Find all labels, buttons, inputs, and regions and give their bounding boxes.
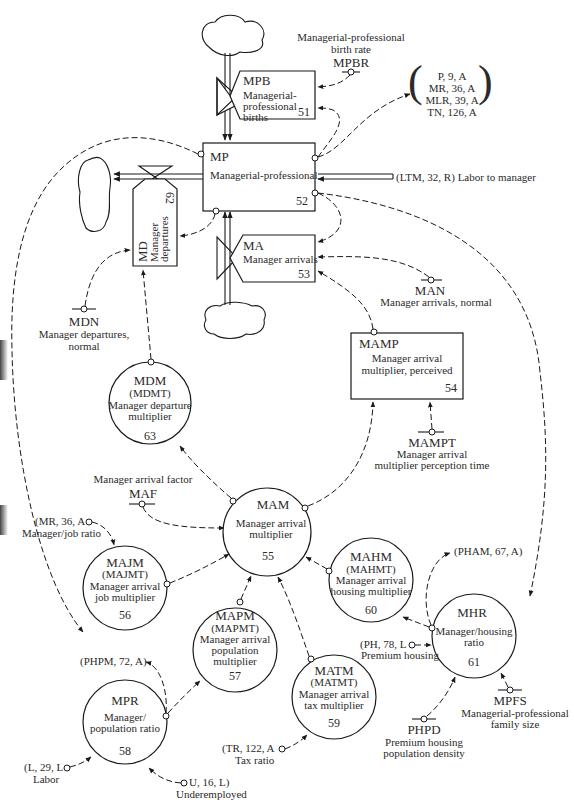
bracket-right: ) <box>478 57 493 106</box>
md-num: 62 <box>163 192 177 204</box>
mpbr-label-2: birth rate <box>331 43 371 55</box>
phpd-code: PHPD <box>407 722 440 737</box>
man-label: Manager arrivals, normal <box>380 296 491 308</box>
pham-ref: (PHAM, 67, A) <box>454 545 523 558</box>
mapm-code: MAPM <box>215 608 255 623</box>
ph-label: Premium housing <box>361 649 439 661</box>
maf-label: Manager arrival factor <box>94 473 193 485</box>
majm-label-2: job multiplier <box>94 591 156 603</box>
majm-num: 56 <box>119 608 131 622</box>
mahm-code: MAHM <box>350 549 392 564</box>
mhr-code: MHR <box>457 605 487 620</box>
mamp-label-2: multiplier, perceived <box>361 364 453 376</box>
source-cloud-top <box>202 15 264 55</box>
ma-code: MA <box>243 238 265 253</box>
mpb-num: 51 <box>298 105 310 119</box>
source-cloud-bottom <box>204 302 265 338</box>
mamp-code: MAMP <box>359 336 399 351</box>
mdm-num: 63 <box>144 429 156 443</box>
ma-label: Manager arrivals <box>243 253 318 265</box>
mpr-code: MPR <box>111 693 139 708</box>
mdm-label-2: multiplier <box>128 410 172 422</box>
mpr-label-2: population ratio <box>90 722 160 734</box>
mpbr-label-1: Managerial-professional <box>297 31 405 43</box>
mr-label: Manager/job ratio <box>22 527 102 539</box>
sink-cloud-left <box>78 157 110 231</box>
bracket-left: ( <box>408 57 423 106</box>
mapm-num: 57 <box>229 669 241 683</box>
mpfs-label-2: family size <box>491 718 540 730</box>
mpfs-code: MPFS <box>493 693 526 708</box>
mpb-code: MPB <box>243 73 271 88</box>
output-ref-1: P, 9, A <box>438 70 467 82</box>
mdn-label-1: Manager departures, <box>39 328 130 340</box>
output-ref-3: MLR, 39, A <box>425 94 478 106</box>
mam-label-2: multiplier <box>249 528 293 540</box>
l-label: Labor <box>33 773 60 785</box>
ma-num: 53 <box>298 267 310 281</box>
mamp-label-1: Manager arrival <box>372 352 443 364</box>
mampt-label-2: multiplier perception time <box>375 459 490 471</box>
output-ref-2: MR, 36, A <box>429 82 476 94</box>
ltm-ref: (LTM, 32, R) Labor to manager <box>396 171 536 184</box>
matm-num: 59 <box>328 716 340 730</box>
mp-code: MP <box>210 149 229 164</box>
matm-label-2: tax multiplier <box>304 699 364 711</box>
mp-num: 52 <box>296 194 308 208</box>
maf-code: MAF <box>129 486 157 501</box>
mahm-label-2: housing multiplier <box>331 585 412 597</box>
mdm-code: MDM <box>134 373 167 388</box>
mpbr-code: MPBR <box>333 55 369 70</box>
mam-code: MAM <box>257 497 290 512</box>
output-ref-4: TN, 126, A <box>427 106 477 118</box>
mpb-label-3: births <box>243 111 268 123</box>
mhr-num: 61 <box>468 655 480 669</box>
mahm-num: 60 <box>365 603 377 617</box>
mapm-label-3: multiplier <box>213 655 257 667</box>
mdn-code: MDN <box>69 314 100 329</box>
mpr-num: 58 <box>119 744 131 758</box>
mp-label: Managerial-professional <box>210 169 318 181</box>
md-label-2: departures <box>158 216 170 262</box>
tr-label: Tax ratio <box>235 754 275 766</box>
phpm-ref: (PHPM, 72, A) <box>80 655 147 668</box>
mdn-label-2: normal <box>68 340 99 352</box>
phpd-label-2: population density <box>383 747 465 759</box>
u-label: Underemployed <box>176 788 247 800</box>
flow-diagram: MPB Managerial- professional births 51 M… <box>0 0 574 808</box>
mhr-label-2: ratio <box>464 636 485 648</box>
mamp-num: 54 <box>445 381 457 395</box>
mam-num: 55 <box>262 549 274 563</box>
